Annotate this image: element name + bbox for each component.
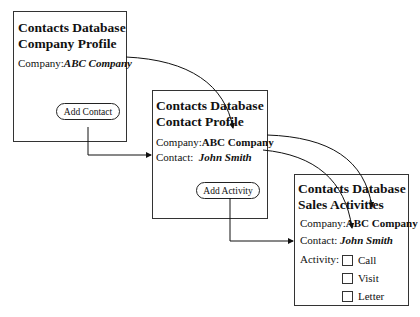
add-contact-button[interactable]: Add Contact: [56, 103, 120, 120]
letter-checkbox[interactable]: [342, 291, 353, 302]
contact-profile-title-line1: Contacts Database: [156, 98, 264, 114]
contact-value: John Smith: [199, 151, 252, 163]
company-profile-title-line1: Contacts Database: [18, 20, 126, 36]
contact-field: Contact: John Smith: [300, 234, 393, 247]
contact-value: John Smith: [340, 234, 393, 246]
contact-profile-title-line2: Contact Profile: [156, 114, 244, 130]
company-profile-title-line2: Company Profile: [18, 36, 116, 52]
add-activity-button[interactable]: Add Activity: [196, 182, 260, 199]
company-field: Company:ABC Company: [18, 57, 132, 70]
company-field: Company:ABC Company: [156, 136, 274, 149]
contact-profile-screen: Contacts Database Contact Profile Compan…: [152, 90, 268, 219]
company-value: ABC Company: [202, 136, 274, 148]
visit-checkbox[interactable]: [342, 273, 353, 284]
visit-label: Visit: [358, 272, 379, 285]
company-label: Company:: [156, 136, 202, 148]
letter-label: Letter: [358, 290, 384, 303]
contact-label: Contact:: [300, 234, 337, 246]
call-checkbox[interactable]: [342, 255, 353, 266]
sales-activities-title-line1: Contacts Database: [298, 181, 406, 197]
company-field: Company:ABC Company: [300, 217, 418, 230]
company-value: ABC Company: [64, 57, 132, 69]
company-value: ABC Company: [346, 217, 418, 229]
sales-activities-title-line2: Sales Activities: [298, 197, 384, 213]
sales-activities-screen: Contacts Database Sales Activities Compa…: [294, 174, 409, 306]
contact-field: Contact: John Smith: [156, 151, 252, 164]
call-label: Call: [358, 254, 376, 267]
company-profile-screen: Contacts Database Company Profile Compan…: [13, 11, 127, 142]
contact-label: Contact:: [156, 151, 193, 163]
activity-label: Activity:: [300, 253, 339, 266]
company-label: Company:: [300, 217, 346, 229]
company-label: Company:: [18, 57, 64, 69]
